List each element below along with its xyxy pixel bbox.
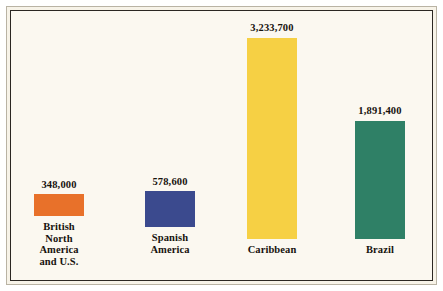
bar-category-label-1: Spanish America xyxy=(145,232,195,255)
bar-category-label-2: Caribbean xyxy=(248,244,297,256)
bar-category-label-3: Brazil xyxy=(366,244,394,256)
bar-value-label-3: 1,891,400 xyxy=(358,106,401,117)
bar-rect-2[interactable] xyxy=(247,38,297,239)
bar-chart-figure: 348,000 British North America and U.S. 5… xyxy=(0,0,443,291)
bar-category-label-0: British North America and U.S. xyxy=(34,221,84,267)
bar-group-0: 348,000 British North America and U.S. xyxy=(34,180,84,268)
bar-rect-1[interactable] xyxy=(145,191,195,227)
bar-rect-3[interactable] xyxy=(355,121,405,239)
bar-group-1: 578,600 Spanish America xyxy=(145,177,195,256)
chart-plot-area: 348,000 British North America and U.S. 5… xyxy=(12,12,431,279)
bar-group-2: 3,233,700 Caribbean xyxy=(247,23,297,255)
bar-value-label-2: 3,233,700 xyxy=(250,23,293,34)
bar-value-label-0: 348,000 xyxy=(41,180,76,191)
bar-value-label-1: 578,600 xyxy=(152,177,187,188)
bar-group-3: 1,891,400 Brazil xyxy=(355,106,405,255)
bar-rect-0[interactable] xyxy=(34,194,84,216)
